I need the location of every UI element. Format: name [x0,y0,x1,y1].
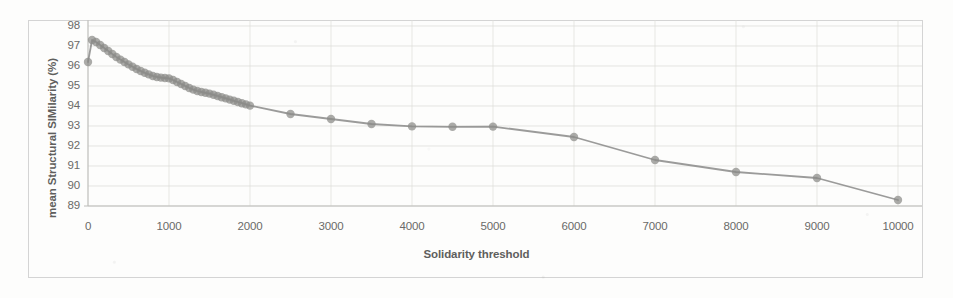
axis-lines [84,20,922,206]
ssim-vs-solidarity-threshold-chart: 98979695949392919089 0100020003000400050… [0,0,953,298]
x-tick-label: 10000 [868,220,928,232]
x-tick-label: 5000 [463,220,523,232]
x-tick-label: 9000 [787,220,847,232]
gridlines [88,20,922,206]
x-tick-label: 6000 [544,220,604,232]
x-tick-label: 3000 [301,220,361,232]
y-tick-label: 98 [54,19,80,31]
x-tick-label: 8000 [706,220,766,232]
x-tick-label: 2000 [220,220,280,232]
x-tick-label: 0 [58,220,118,232]
x-tick-label: 1000 [139,220,199,232]
x-axis-title: Solidarity threshold [0,248,953,260]
x-tick-label: 7000 [625,220,685,232]
y-tick-label: 97 [54,39,80,51]
x-tick-label: 4000 [382,220,442,232]
y-axis-title: mean Structural SIMilarity (%) [46,58,58,218]
